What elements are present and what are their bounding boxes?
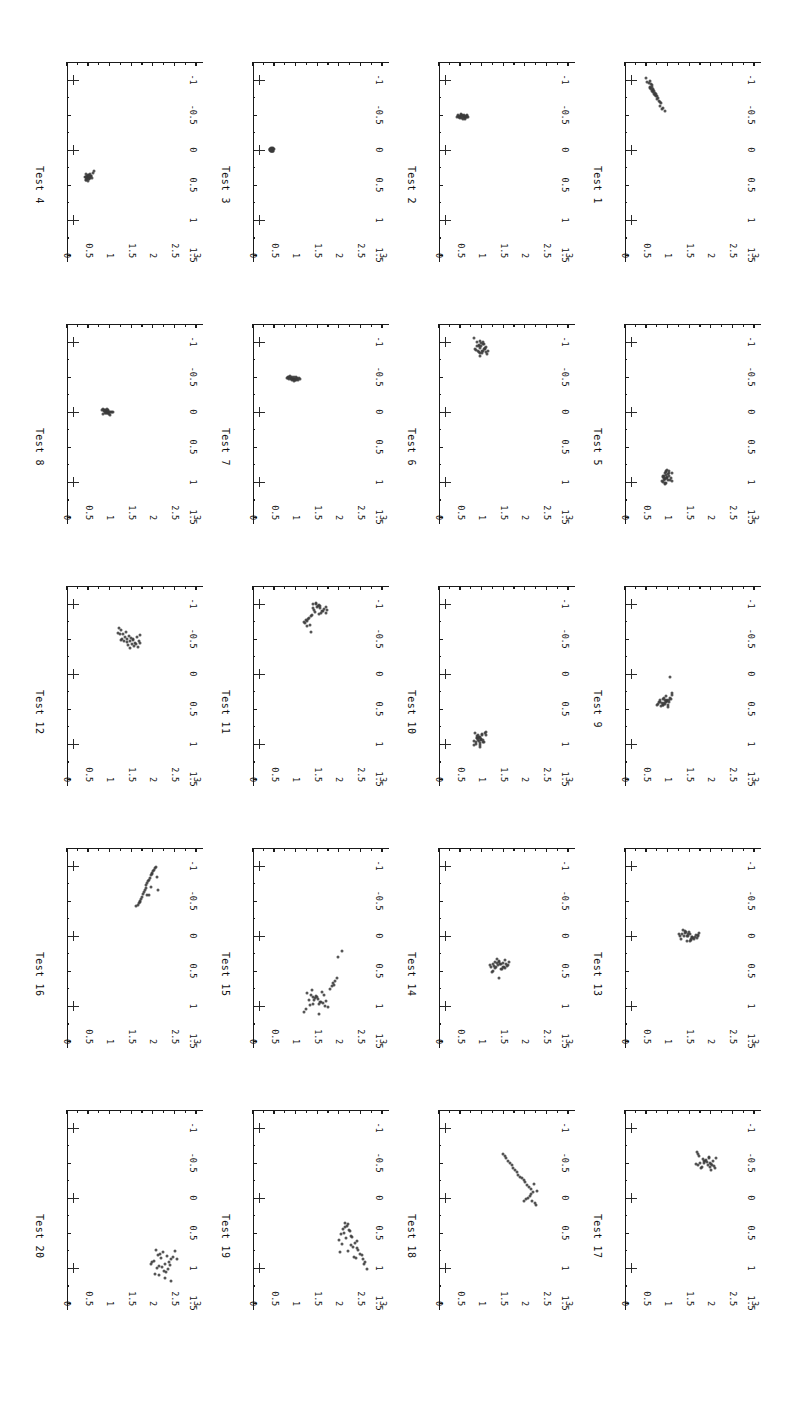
x-axis-tick-label: 0 xyxy=(188,933,198,938)
y-axis-tick xyxy=(753,1110,754,1114)
y-axis-tick xyxy=(131,1110,132,1114)
x-axis-tick-label: -0.5 xyxy=(374,891,384,911)
y-axis-minor-tick xyxy=(306,62,307,65)
y-axis-minor-tick xyxy=(513,324,514,327)
y-axis-tick-label: 0.5 xyxy=(456,1291,466,1306)
y-axis-minor-tick xyxy=(120,62,121,65)
x-axis-tick-label: -1 xyxy=(374,861,384,871)
panel-title: Test 8 xyxy=(34,428,45,466)
x-axis-minor-tick xyxy=(625,499,628,500)
y-axis-tick-label: 1.5 xyxy=(313,767,323,782)
y-axis-minor-tick xyxy=(492,62,493,65)
x-axis-minor-tick xyxy=(67,464,70,465)
y-axis-tick xyxy=(338,62,339,66)
y-axis-tick-label: 3 xyxy=(750,777,760,782)
x-axis-tick-label: 1 xyxy=(560,741,570,746)
y-axis-tick-label: 1.5 xyxy=(685,505,695,520)
x-axis-minor-tick xyxy=(67,953,70,954)
x-axis-tick-label: -0.5 xyxy=(188,629,198,649)
data-point xyxy=(346,1250,349,1253)
y-axis-tick-label: 1 xyxy=(663,1301,673,1306)
x-axis-tick-label: 0.5 xyxy=(188,701,198,716)
axis-reference-cross xyxy=(627,477,637,487)
panel-title: Test 4 xyxy=(34,166,45,204)
x-axis-line xyxy=(625,848,626,1048)
plot-area: -1-0.500.511.500.511.522.53 xyxy=(253,848,389,1048)
y-axis-minor-tick xyxy=(557,586,558,589)
x-axis-tick xyxy=(625,447,629,448)
x-axis-tick xyxy=(625,639,629,640)
x-axis-minor-tick xyxy=(67,988,70,989)
data-point xyxy=(474,348,477,351)
y-axis-tick xyxy=(295,1110,296,1114)
panel-grid: -1-0.500.511.500.511.522.53Test 1-1-0.50… xyxy=(0,0,811,1402)
data-point xyxy=(309,993,312,996)
data-point xyxy=(91,171,94,174)
y-axis-tick-label: 0 xyxy=(248,515,258,520)
data-point xyxy=(161,1251,164,1254)
x-axis-tick xyxy=(67,971,71,972)
x-axis-tick-label: 0.5 xyxy=(374,701,384,716)
y-axis-tick-label: 0.5 xyxy=(642,505,652,520)
panel-title: Test 20 xyxy=(34,1214,45,1258)
y-axis-tick-label: 0 xyxy=(434,1301,444,1306)
axis-reference-cross xyxy=(255,1263,265,1273)
data-point xyxy=(510,1164,513,1167)
y-axis-tick-label: 1 xyxy=(663,253,673,258)
y-axis-tick-label: 1.5 xyxy=(313,1029,323,1044)
x-axis-tick xyxy=(625,115,629,116)
x-axis-minor-tick xyxy=(439,691,442,692)
scatter-panel: -1-0.500.511.500.511.522.53Test 19 xyxy=(225,1064,411,1326)
y-axis-tick-label: 0.5 xyxy=(642,1291,652,1306)
axis-reference-cross xyxy=(255,75,265,85)
data-point xyxy=(168,1264,171,1267)
y-axis-tick-label: 0.5 xyxy=(642,1029,652,1044)
y-axis-tick xyxy=(546,324,547,328)
axis-reference-cross xyxy=(69,337,79,347)
data-point xyxy=(709,1168,712,1171)
x-axis-tick-label: 1 xyxy=(374,217,384,222)
y-axis-tick xyxy=(710,586,711,590)
scatter-panel: -1-0.500.511.500.511.522.53Test 4 xyxy=(39,16,225,278)
x-axis-tick-label: 0.5 xyxy=(374,963,384,978)
y-axis-minor-tick xyxy=(77,324,78,327)
data-point xyxy=(350,1234,353,1237)
y-axis-minor-tick xyxy=(349,848,350,851)
axis-reference-cross xyxy=(627,739,637,749)
y-axis-tick-label: 3 xyxy=(192,253,202,258)
y-axis-minor-tick xyxy=(678,1110,679,1113)
y-axis-tick-label: 3 xyxy=(192,1039,202,1044)
plot-area: -1-0.500.511.500.511.522.53 xyxy=(253,1110,389,1310)
plot-area: -1-0.500.511.500.511.522.53 xyxy=(439,62,575,262)
x-axis-minor-tick xyxy=(439,499,442,500)
y-axis-tick-label: 2 xyxy=(520,1039,530,1044)
x-axis-tick-label: -0.5 xyxy=(560,629,570,649)
x-axis-tick-label: 1 xyxy=(374,1003,384,1008)
x-axis-minor-tick xyxy=(439,1285,442,1286)
scatter-panel: -1-0.500.511.500.511.522.53Test 6 xyxy=(411,278,597,540)
x-axis-tick-label: -0.5 xyxy=(188,1153,198,1173)
y-axis-minor-tick xyxy=(77,848,78,851)
y-axis-tick xyxy=(295,586,296,590)
y-axis-tick-label: 0 xyxy=(62,253,72,258)
y-axis-tick-label: 2.5 xyxy=(728,1029,738,1044)
scatter-panel: -1-0.500.511.500.511.522.53Test 11 xyxy=(225,540,411,802)
y-axis-tick-label: 3 xyxy=(564,777,574,782)
y-axis-tick-label: 2.5 xyxy=(170,1029,180,1044)
x-axis-tick-label: -1 xyxy=(746,337,756,347)
plot-area: -1-0.500.511.500.511.522.53 xyxy=(625,586,761,786)
scatter-panel: -1-0.500.511.500.511.522.53Test 5 xyxy=(597,278,783,540)
data-point xyxy=(308,998,311,1001)
x-axis-tick-label: 0 xyxy=(188,409,198,414)
y-axis-minor-tick xyxy=(163,62,164,65)
y-axis-tick-label: 2.5 xyxy=(542,243,552,258)
x-axis-minor-tick xyxy=(253,97,256,98)
y-axis-tick xyxy=(195,62,196,66)
y-axis-tick-label: 0 xyxy=(434,1039,444,1044)
y-axis-tick-label: 2.5 xyxy=(170,505,180,520)
y-axis-tick xyxy=(252,62,253,66)
x-axis-minor-tick xyxy=(67,1023,70,1024)
data-point xyxy=(665,476,668,479)
axis-reference-cross xyxy=(69,739,79,749)
data-point xyxy=(159,1252,162,1255)
